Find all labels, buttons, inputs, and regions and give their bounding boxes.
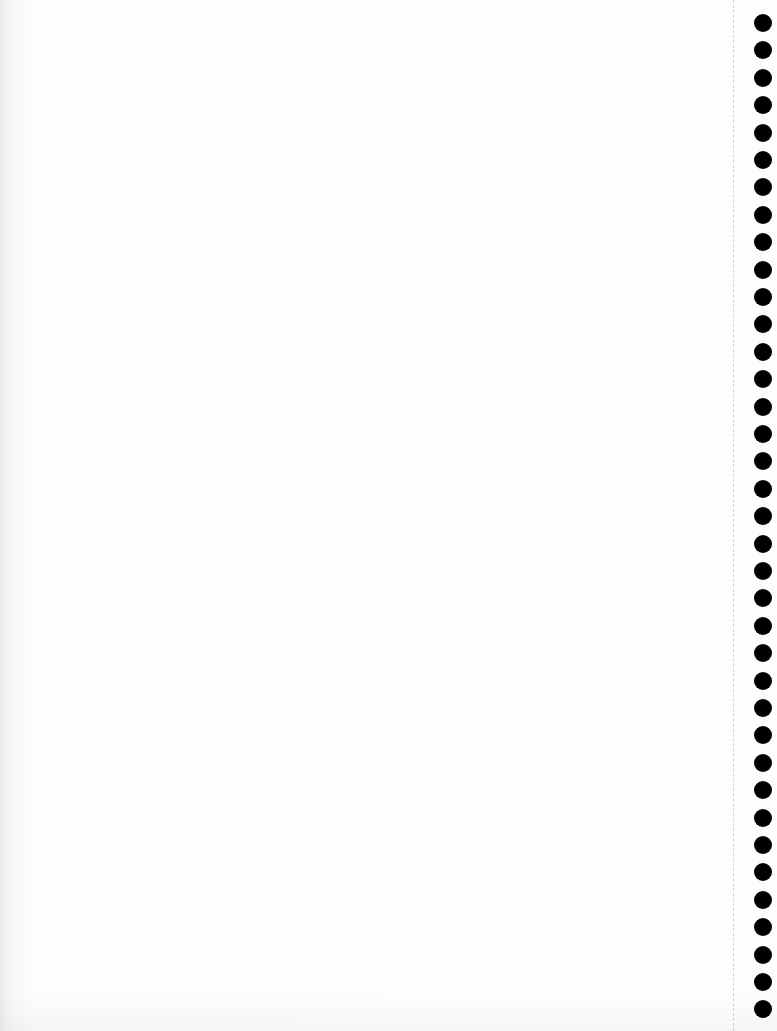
feed-hole-icon bbox=[754, 425, 772, 443]
feed-hole-icon bbox=[754, 946, 772, 964]
feed-hole-icon bbox=[754, 809, 772, 827]
feed-hole-icon bbox=[754, 151, 772, 169]
feed-hole-icon bbox=[754, 261, 772, 279]
feed-hole-icon bbox=[754, 124, 772, 142]
feed-hole-icon bbox=[754, 14, 772, 32]
feed-hole-icon bbox=[754, 836, 772, 854]
perforation-tear-line bbox=[733, 0, 734, 1031]
bleed-through-text bbox=[30, 60, 710, 1000]
feed-hole-icon bbox=[754, 699, 772, 717]
feed-hole-icon bbox=[754, 206, 772, 224]
feed-hole-icon bbox=[754, 754, 772, 772]
feed-hole-icon bbox=[754, 288, 772, 306]
feed-hole-icon bbox=[754, 480, 772, 498]
feed-hole-icon bbox=[754, 617, 772, 635]
feed-hole-icon bbox=[754, 343, 772, 361]
feed-hole-icon bbox=[754, 69, 772, 87]
bottom-shadow bbox=[0, 990, 777, 1031]
feed-hole-icon bbox=[754, 398, 772, 416]
feed-hole-icon bbox=[754, 891, 772, 909]
feed-hole-icon bbox=[754, 973, 772, 991]
feed-hole-icon bbox=[754, 535, 772, 553]
feed-hole-icon bbox=[754, 562, 772, 580]
paper-sheet bbox=[0, 0, 777, 1031]
feed-hole-icon bbox=[754, 672, 772, 690]
